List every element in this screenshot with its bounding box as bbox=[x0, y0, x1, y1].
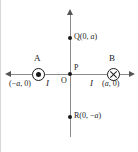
point-q-marker bbox=[68, 36, 72, 40]
wire-b-current-label: I bbox=[90, 79, 93, 88]
wire-a-coordinate-label: (−a, 0) bbox=[9, 80, 31, 88]
point-p-label: P bbox=[74, 64, 78, 72]
wire-b-coordinate-label: (a, 0) bbox=[102, 80, 119, 88]
wire-b-label: B bbox=[109, 54, 115, 63]
physics-figure-canvas: A B P O Q(0, a) R(0, −a) (−a, 0) I I (a,… bbox=[0, 0, 138, 152]
point-q-label: Q(0, a) bbox=[74, 33, 97, 41]
current-out-of-page-icon bbox=[32, 68, 45, 81]
origin-point-marker bbox=[68, 72, 72, 76]
x-axis-right-arrow-icon bbox=[129, 71, 135, 77]
point-r-label: R(0, −a) bbox=[74, 112, 101, 120]
wire-a-current-label: I bbox=[46, 79, 49, 88]
wire-a-label: A bbox=[34, 54, 41, 63]
point-r-marker bbox=[68, 115, 72, 119]
origin-label: O bbox=[61, 77, 67, 85]
y-axis-arrow-icon bbox=[67, 9, 73, 15]
x-axis-left-arrow-icon bbox=[5, 71, 11, 77]
